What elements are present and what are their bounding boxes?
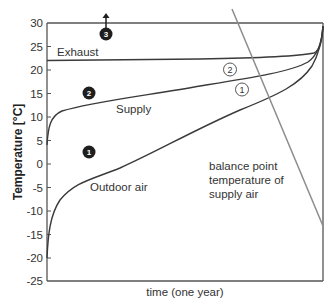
badge-1: 1 (83, 146, 96, 159)
svg-text:2: 2 (227, 65, 232, 75)
ytick-neg20: -20 (26, 252, 43, 264)
x-axis-label: time (one year) (146, 286, 224, 298)
svg-text:2: 2 (87, 89, 92, 98)
ytick-neg15: -15 (26, 229, 43, 241)
ytick-30: 30 (30, 17, 43, 29)
ytick-neg10: -10 (26, 205, 43, 217)
outdoor-air-label: Outdoor air (90, 181, 148, 193)
ytick-20: 20 (30, 64, 43, 76)
outdoor-air-line (47, 26, 323, 258)
svg-text:1: 1 (87, 148, 92, 157)
ytick-10: 10 (30, 111, 43, 123)
exhaust-label: Exhaust (57, 46, 99, 58)
balance-label-line2: temperature of (209, 174, 285, 186)
open-circle-1: 1 (236, 83, 249, 96)
ytick-0: 0 (37, 158, 43, 170)
ytick-neg5: -5 (33, 182, 43, 194)
supply-label: Supply (116, 103, 151, 115)
y-axis-tick-labels: 30 25 20 15 10 5 0 -5 -10 -15 -20 -25 (26, 17, 43, 287)
balance-label-line1: balance point (209, 160, 278, 172)
balance-label-line3: supply air (209, 188, 258, 200)
ytick-5: 5 (37, 135, 43, 147)
arrow-head-icon (103, 13, 110, 18)
chart: 30 25 20 15 10 5 0 -5 -10 -15 -20 -25 Te… (0, 0, 336, 303)
svg-text:1: 1 (239, 85, 244, 95)
ytick-25: 25 (30, 41, 43, 53)
ytick-15: 15 (30, 88, 43, 100)
svg-text:3: 3 (104, 30, 109, 39)
ytick-neg25: -25 (26, 275, 43, 287)
open-circle-2: 2 (224, 63, 237, 76)
y-axis-label: Temperature [°C] (11, 104, 25, 201)
badge-2: 2 (83, 87, 96, 100)
badge-3: 3 (100, 13, 113, 41)
